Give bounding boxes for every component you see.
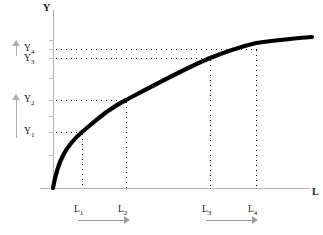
x-tick-label-l3: L3	[202, 205, 211, 215]
production-curve	[0, 0, 323, 235]
y-tick-label-y3-text: Y	[24, 53, 31, 63]
x-tick-label-l4: L4	[248, 205, 257, 215]
arrow-head-right-icon	[252, 216, 258, 224]
arrow-shaft	[78, 220, 125, 221]
production-function-chart: Y L Y4 Y3 Y2 Y1 L1 L2 L3 L4	[0, 0, 323, 235]
arrow-shaft	[16, 44, 17, 56]
y-tick-label-y3-sub: 3	[31, 58, 35, 66]
y-tick-label-y1-sub: 1	[31, 131, 35, 139]
arrow-shaft	[206, 220, 253, 221]
y-tick-label-y1-text: Y	[24, 126, 31, 136]
y-tick-label-y1: Y1	[24, 127, 34, 137]
y-tick-label-y2: Y2	[24, 95, 34, 105]
arrow-shaft	[16, 98, 17, 138]
output-gain-arrow-upper	[12, 40, 21, 56]
labour-increment-arrow-upper	[206, 216, 258, 224]
y-tick-label-y2-text: Y	[24, 94, 31, 104]
y-tick-label-y3: Y3	[24, 54, 34, 64]
y-tick-label-y2-sub: 2	[31, 99, 35, 107]
x-tick-label-l2: L2	[118, 205, 127, 215]
labour-increment-arrow-lower	[78, 216, 130, 224]
arrow-head-right-icon	[124, 216, 130, 224]
output-gain-arrow-lower	[12, 94, 21, 138]
x-tick-label-l1: L1	[74, 205, 83, 215]
y-tick-label-y4-text: Y	[24, 43, 31, 53]
